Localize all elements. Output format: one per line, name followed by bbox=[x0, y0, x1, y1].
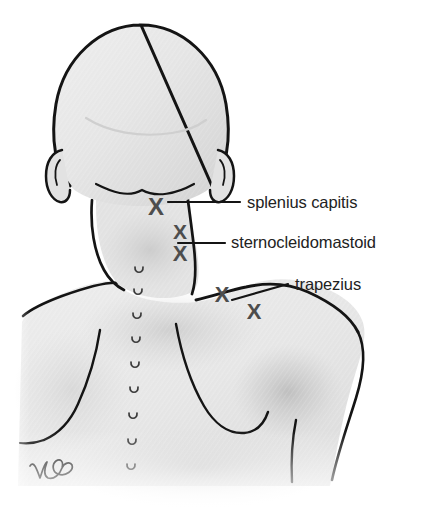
x-trapezius-lower: X bbox=[247, 299, 262, 324]
anatomy-figure: XXXXX splenius capitissternocleidomastoi… bbox=[0, 0, 430, 516]
x-splenius-capitis: X bbox=[148, 193, 164, 220]
x-sternocleidomastoid-upper: X bbox=[173, 220, 187, 243]
left-fade-overlay bbox=[0, 270, 30, 500]
x-sternocleidomastoid-lower: X bbox=[173, 241, 188, 266]
bottom-fade-overlay bbox=[0, 430, 430, 516]
label-splenius-capitis: splenius capitis bbox=[247, 193, 357, 211]
x-trapezius-upper: X bbox=[215, 282, 230, 307]
anatomy-illustration: XXXXX splenius capitissternocleidomastoi… bbox=[0, 0, 430, 516]
label-trapezius: trapezius bbox=[295, 275, 361, 293]
label-sternocleidomastoid: sternocleidomastoid bbox=[231, 233, 376, 251]
